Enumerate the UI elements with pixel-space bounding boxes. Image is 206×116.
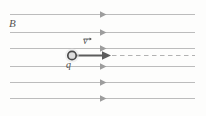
field-arrowhead-icon-1 — [100, 11, 107, 18]
field-arrowhead-icon-6 — [100, 95, 107, 102]
field-diagram-svg — [0, 0, 206, 116]
velocity-arrowhead-icon — [102, 51, 111, 59]
velocity-vector-label: v — [83, 36, 87, 46]
magnetic-field-label: B — [9, 18, 16, 29]
velocity-symbol-wrap: v — [83, 36, 87, 46]
field-arrowhead-icon-4 — [100, 63, 107, 70]
field-arrowhead-icon-3 — [100, 45, 107, 52]
physics-diagram-canvas: B v q — [0, 0, 206, 116]
field-arrowhead-icon-2 — [100, 29, 107, 36]
velocity-symbol-text: v — [83, 35, 87, 46]
charge-label: q — [66, 60, 71, 70]
field-arrowhead-icon-5 — [100, 79, 107, 86]
